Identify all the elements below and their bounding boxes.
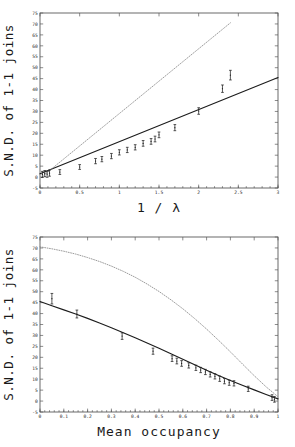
y-axis-label: S.N.D. of 1-1 joins — [1, 248, 16, 401]
y-tick-label: 30 — [32, 109, 38, 114]
y-axis: -5051015202530354045505560657075 — [32, 11, 278, 191]
series-dotted-reference-curve — [40, 247, 278, 397]
y-tick-label: 0 — [35, 399, 38, 404]
plot-svg-bottom: -505101520253035404550556065707500.10.20… — [0, 224, 295, 447]
y-tick-label: 35 — [32, 322, 38, 327]
x-tick-label: 3 — [277, 190, 280, 195]
series-dotted-reference-line — [42, 23, 230, 177]
y-tick-label: 25 — [32, 344, 38, 349]
x-tick-label: 0 — [39, 190, 42, 195]
y-axis: -5051015202530354045505560657075 — [32, 235, 278, 415]
y-tick-label: 55 — [32, 54, 38, 59]
series-data-points — [51, 293, 276, 402]
y-tick-label: 0 — [35, 175, 38, 180]
y-tick-label: 15 — [32, 366, 38, 371]
x-tick-label: 1 — [277, 414, 280, 419]
chart-bottom: -505101520253035404550556065707500.10.20… — [0, 224, 295, 447]
y-tick-label: 70 — [32, 22, 38, 27]
x-tick-label: 0.9 — [250, 414, 259, 419]
x-tick-label: 0.8 — [226, 414, 235, 419]
series-solid-fitted-curve — [40, 302, 278, 399]
y-tick-label: 20 — [32, 131, 38, 136]
y-tick-label: 10 — [32, 153, 38, 158]
x-axis-label: Mean occupancy — [97, 424, 221, 439]
y-tick-label: 75 — [32, 11, 38, 16]
x-tick-label: 0.4 — [131, 414, 140, 419]
x-tick-label: 0 — [39, 414, 42, 419]
y-tick-label: -5 — [32, 186, 38, 191]
y-tick-label: 65 — [32, 257, 38, 262]
y-tick-label: 55 — [32, 278, 38, 283]
y-tick-label: 40 — [32, 311, 38, 316]
y-tick-label: 50 — [32, 289, 38, 294]
y-tick-label: 70 — [32, 246, 38, 251]
x-tick-label: 0.1 — [60, 414, 69, 419]
y-tick-label: 35 — [32, 98, 38, 103]
x-tick-label: 0.5 — [76, 190, 85, 195]
x-tick-label: 2.5 — [234, 190, 243, 195]
series-solid-fitted-line — [40, 78, 278, 174]
x-tick-label: 0.5 — [155, 414, 164, 419]
x-tick-label: 1.5 — [155, 190, 164, 195]
y-tick-label: 5 — [35, 388, 38, 393]
plot-svg-top: -505101520253035404550556065707500.511.5… — [0, 0, 295, 223]
x-tick-label: 0.2 — [83, 414, 92, 419]
y-tick-label: 60 — [32, 44, 38, 49]
y-tick-label: 60 — [32, 268, 38, 273]
x-tick-label: 0.3 — [107, 414, 116, 419]
y-tick-label: -5 — [32, 410, 38, 415]
x-tick-label: 1 — [118, 190, 121, 195]
y-tick-label: 45 — [32, 300, 38, 305]
x-axis-label: 1 / λ — [137, 200, 181, 215]
x-tick-label: 2 — [197, 190, 200, 195]
y-tick-label: 20 — [32, 355, 38, 360]
y-tick-label: 5 — [35, 164, 38, 169]
y-tick-label: 15 — [32, 142, 38, 147]
y-tick-label: 10 — [32, 377, 38, 382]
y-tick-label: 45 — [32, 76, 38, 81]
x-axis: 00.10.20.30.40.50.60.70.80.91 — [39, 237, 280, 419]
chart-top: -505101520253035404550556065707500.511.5… — [0, 0, 295, 223]
x-tick-label: 0.7 — [202, 414, 211, 419]
y-tick-label: 25 — [32, 120, 38, 125]
x-tick-label: 0.6 — [179, 414, 188, 419]
plot-frame — [40, 13, 278, 188]
y-tick-label: 75 — [32, 235, 38, 240]
page-edge-artifact — [0, 440, 295, 447]
y-tick-label: 40 — [32, 87, 38, 92]
y-tick-label: 30 — [32, 333, 38, 338]
x-axis: 00.511.522.53 — [39, 13, 280, 195]
y-tick-label: 65 — [32, 33, 38, 38]
y-axis-label: S.N.D. of 1-1 joins — [1, 24, 16, 177]
y-tick-label: 50 — [32, 65, 38, 70]
